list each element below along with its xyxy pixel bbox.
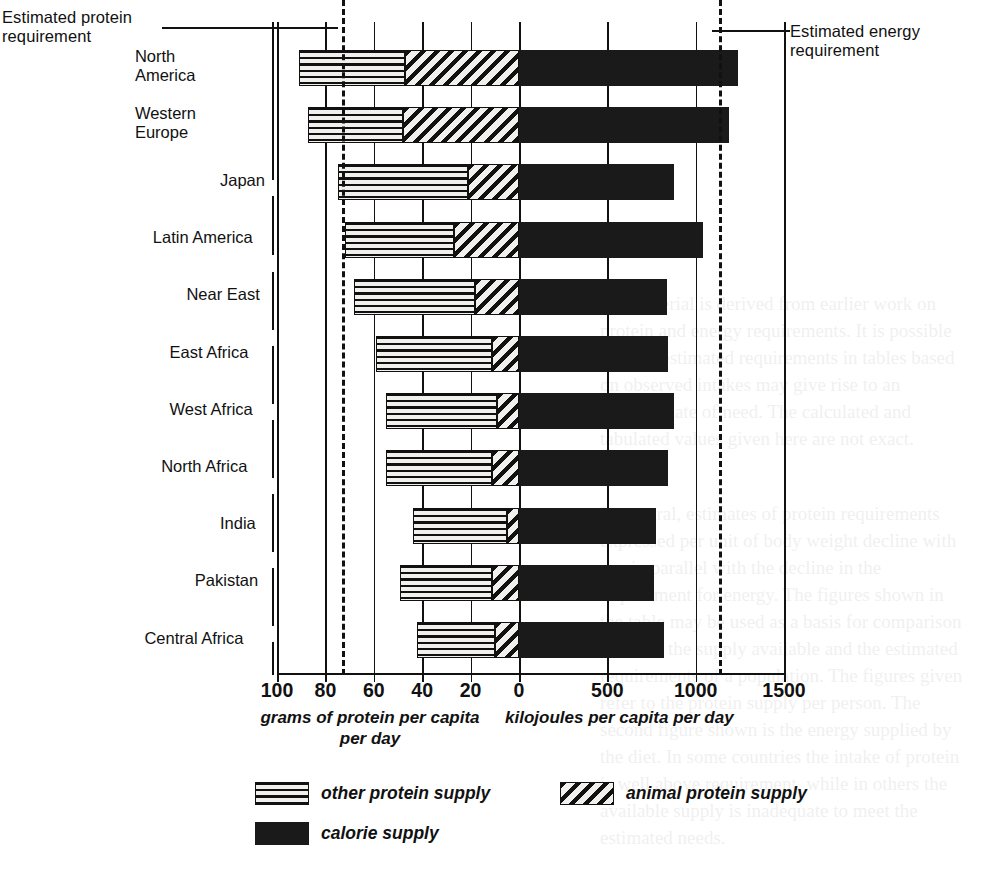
- category-spine-segment: [272, 272, 274, 330]
- bar-segment-other-protein: [417, 622, 494, 658]
- category-label-text: Western Europe: [0, 104, 272, 142]
- bar-segment-animal-protein: [454, 222, 519, 258]
- bar-segment-other-protein: [386, 393, 497, 429]
- category-label-text: Japan: [0, 171, 272, 190]
- category-spine-segment: [272, 568, 274, 626]
- category-label-text: West Africa: [0, 400, 272, 419]
- axis-title-energy: kilojoules per capita per day: [505, 707, 795, 728]
- bar-row: [277, 336, 784, 372]
- bar-row: [277, 279, 784, 315]
- tick-label-protein-20: 20: [460, 679, 482, 702]
- category-label-text: Near East: [0, 285, 272, 304]
- category-spine-segment: [272, 22, 274, 180]
- tick-label-energy-1500: 1500: [762, 679, 805, 702]
- bar-segment-calorie: [519, 508, 656, 544]
- bar-segment-animal-protein: [492, 336, 519, 372]
- category-label-text: Latin America: [0, 228, 272, 247]
- category-label-text: North Africa: [0, 457, 272, 476]
- bar-segment-calorie: [519, 107, 729, 143]
- legend-item-calorie: calorie supply: [255, 822, 439, 845]
- category-label-text: Pakistan: [0, 571, 272, 590]
- plot-area: [277, 22, 784, 675]
- bar-segment-animal-protein: [497, 393, 519, 429]
- annotation-energy-requirement: Estimated energy requirement: [790, 22, 975, 60]
- category-label-text: Central Africa: [0, 629, 272, 648]
- bar-row: [277, 50, 784, 86]
- category-label-text: East Africa: [0, 343, 272, 362]
- bar-segment-animal-protein: [492, 565, 519, 601]
- tick-number-group: 10080604020050010001500: [0, 679, 983, 705]
- bar-row: [277, 508, 784, 544]
- category-spine-segment: [272, 346, 274, 404]
- bar-row: [277, 222, 784, 258]
- bar-segment-other-protein: [354, 279, 475, 315]
- bar-segment-animal-protein: [468, 164, 519, 200]
- bar-row: [277, 393, 784, 429]
- bar-segment-calorie: [519, 450, 668, 486]
- tick-label-energy-1000: 1000: [674, 679, 717, 702]
- legend-swatch-animal-protein: [560, 782, 614, 805]
- tick-label-protein-100: 100: [261, 679, 294, 702]
- bar-segment-calorie: [519, 393, 674, 429]
- bar-segment-other-protein: [386, 450, 492, 486]
- tick-label-protein-40: 40: [411, 679, 433, 702]
- axis-title-protein: grams of protein per capita per day: [250, 707, 490, 749]
- legend-label-other-protein: other protein supply: [321, 783, 490, 804]
- category-spine-segment: [272, 494, 274, 552]
- legend-swatch-other-protein: [255, 782, 309, 805]
- category-label-column: North AmericaWestern EuropeJapanLatin Am…: [0, 22, 272, 675]
- bar-segment-other-protein: [376, 336, 492, 372]
- category-spine-segment: [272, 642, 274, 675]
- bar-segment-calorie: [519, 622, 664, 658]
- bar-segment-other-protein: [413, 508, 507, 544]
- legend-item-other-protein: other protein supply: [255, 782, 490, 805]
- bar-segment-calorie: [519, 336, 668, 372]
- bar-segment-animal-protein: [475, 279, 519, 315]
- legend-label-animal-protein: animal protein supply: [626, 783, 807, 804]
- bar-segment-calorie: [519, 279, 667, 315]
- legend-label-calorie: calorie supply: [321, 823, 439, 844]
- bar-row: [277, 450, 784, 486]
- protein-energy-supply-chart: Estimated protein requirement Estimated …: [0, 0, 983, 886]
- bar-segment-calorie: [519, 565, 654, 601]
- bar-segment-other-protein: [345, 222, 454, 258]
- bar-segment-other-protein: [299, 50, 405, 86]
- energy-requirement-dashed-line: [719, 0, 722, 675]
- tick-label-protein-0: 0: [514, 679, 525, 702]
- legend: other protein supply animal protein supp…: [255, 782, 815, 852]
- protein-requirement-dashed-line: [342, 0, 345, 675]
- tick-label-protein-80: 80: [315, 679, 337, 702]
- bar-segment-other-protein: [400, 565, 492, 601]
- bar-segment-calorie: [519, 50, 738, 86]
- bar-segment-other-protein: [308, 107, 402, 143]
- legend-item-animal-protein: animal protein supply: [560, 782, 807, 805]
- tick-label-energy-500: 500: [591, 679, 624, 702]
- category-label-text: India: [0, 514, 272, 533]
- bar-segment-animal-protein: [507, 508, 519, 544]
- bar-segment-animal-protein: [492, 450, 519, 486]
- tick-label-protein-60: 60: [363, 679, 385, 702]
- gridline-energy-1500: [784, 22, 786, 673]
- bar-segment-animal-protein: [405, 50, 519, 86]
- category-spine-segment: [272, 196, 274, 255]
- bar-row: [277, 164, 784, 200]
- bar-row: [277, 565, 784, 601]
- bar-segment-calorie: [519, 222, 703, 258]
- category-label-text: North America: [0, 47, 272, 85]
- category-spine-segment: [272, 420, 274, 478]
- bar-segment-calorie: [519, 164, 674, 200]
- legend-swatch-calorie: [255, 822, 309, 845]
- axis-bottom-spine: [277, 673, 784, 675]
- bar-segment-other-protein: [338, 164, 469, 200]
- bar-segment-animal-protein: [403, 107, 519, 143]
- bar-row: [277, 622, 784, 658]
- bar-segment-animal-protein: [495, 622, 519, 658]
- bar-row: [277, 107, 784, 143]
